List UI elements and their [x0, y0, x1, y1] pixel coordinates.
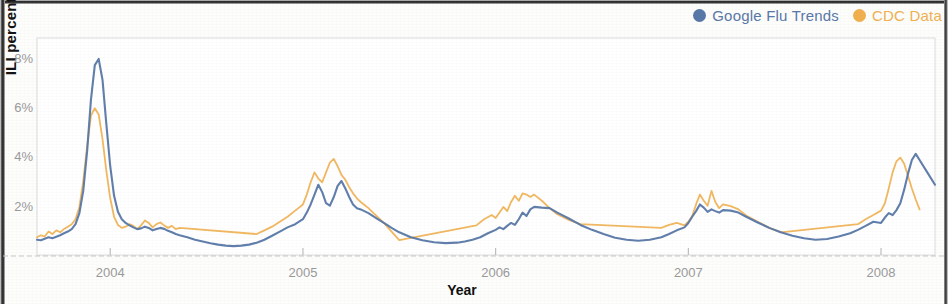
y-axis-tick-label: 8%	[14, 51, 33, 66]
x-axis-tick-label: 2005	[288, 265, 317, 280]
y-axis-tick-label: 2%	[14, 199, 33, 214]
x-axis-title: Year	[0, 282, 948, 298]
x-axis-tick-label: 2007	[674, 265, 703, 280]
y-axis-tick-label: 6%	[14, 100, 33, 115]
x-axis-tick-label: 2008	[867, 265, 896, 280]
flu-trends-figure: Google Flu Trends CDC Data ILI percentag…	[0, 0, 948, 304]
plot-frame	[37, 38, 935, 255]
y-axis-tick-label: 4%	[14, 149, 33, 164]
plot-area: 2%4%6%8%20042005200620072008	[0, 0, 948, 304]
x-axis-tick-label: 2006	[481, 265, 510, 280]
x-axis-title-text: Year	[447, 282, 477, 298]
x-axis-tick-label: 2004	[96, 265, 125, 280]
